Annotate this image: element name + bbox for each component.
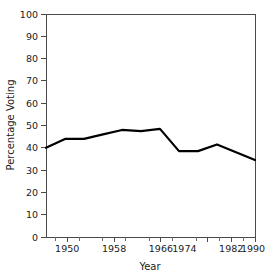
- x-tick-label: 1974: [172, 243, 196, 254]
- y-tick-label: 70: [26, 75, 38, 86]
- y-tick-label: 100: [20, 9, 38, 20]
- x-axis-major-ticks: [67, 237, 255, 242]
- x-tick-label: 1982: [219, 243, 243, 254]
- data-series-line: [46, 129, 255, 160]
- y-tick-label: 30: [26, 165, 38, 176]
- x-axis-tick-labels: 1950 1958 1966 1974 1982 1990: [55, 243, 265, 254]
- y-tick-label: 20: [26, 187, 38, 198]
- y-axis-title: Percentage Voting: [5, 79, 16, 170]
- y-tick-label: 10: [26, 209, 38, 220]
- x-tick-label: 1966: [149, 243, 173, 254]
- x-axis-title: Year: [138, 261, 161, 272]
- x-tick-label: 1950: [55, 243, 79, 254]
- y-tick-label: 40: [26, 142, 38, 153]
- y-tick-label: 50: [26, 120, 38, 131]
- y-tick-label: 0: [32, 232, 38, 243]
- y-tick-label: 60: [26, 98, 38, 109]
- y-axis-ticks: [41, 14, 46, 237]
- x-tick-label: 1958: [102, 243, 126, 254]
- x-tick-label: 1990: [241, 243, 265, 254]
- x-axis-minor-ticks: [56, 237, 244, 241]
- y-axis-tick-labels: 100 90 80 70 60 50 40 30 20 10 0: [20, 9, 38, 243]
- plot-frame: [46, 14, 255, 237]
- line-chart: 100 90 80 70 60 50 40 30 20 10 0: [0, 0, 273, 278]
- chart-container: 100 90 80 70 60 50 40 30 20 10 0: [0, 0, 273, 278]
- y-tick-label: 80: [26, 53, 38, 64]
- y-tick-label: 90: [26, 31, 38, 42]
